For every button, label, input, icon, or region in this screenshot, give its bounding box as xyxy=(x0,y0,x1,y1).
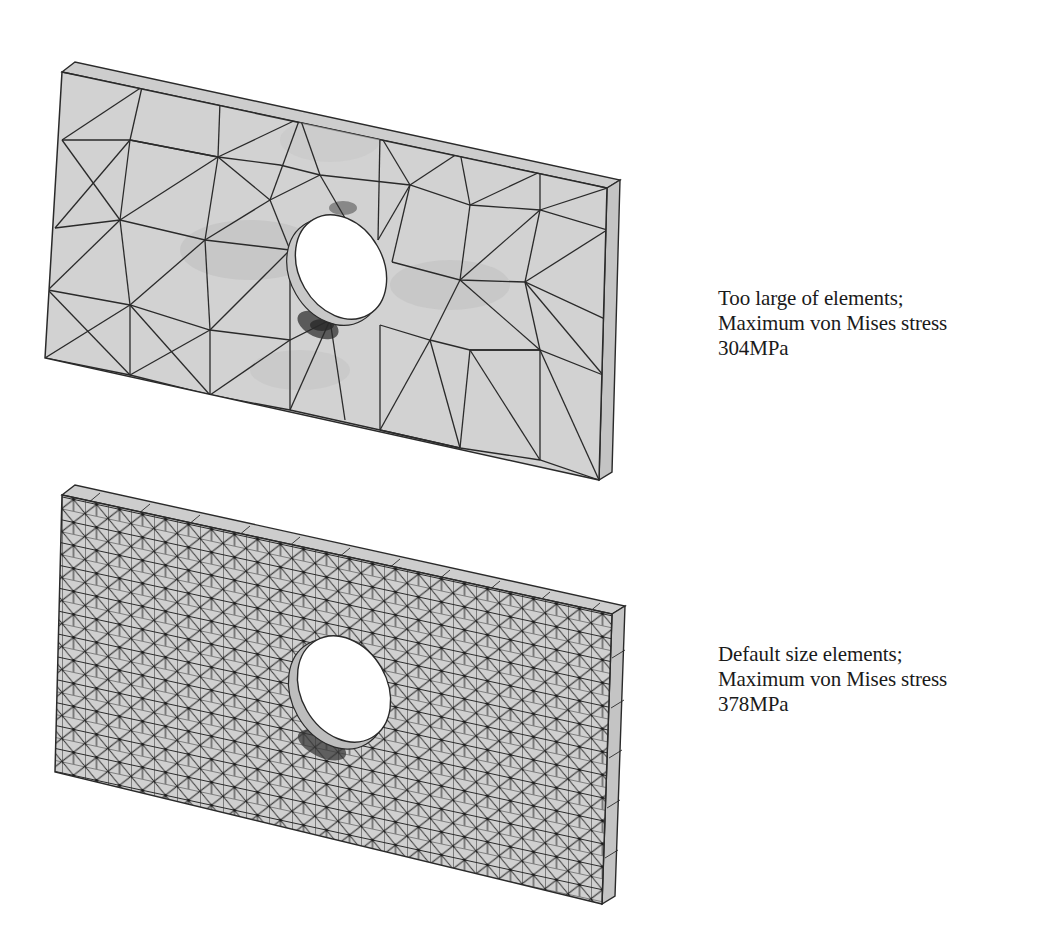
default-mesh-plate xyxy=(0,0,700,942)
caption-line-1: Too large of elements; xyxy=(718,286,947,311)
caption-line-2: Maximum von Mises stress xyxy=(718,667,947,692)
coarse-mesh-caption: Too large of elements; Maximum von Mises… xyxy=(718,286,947,361)
default-mesh-caption: Default size elements; Maximum von Mises… xyxy=(718,642,947,717)
caption-line-2: Maximum von Mises stress xyxy=(718,311,947,336)
caption-line-1: Default size elements; xyxy=(718,642,947,667)
caption-stress-value: 304MPa xyxy=(718,336,947,361)
fea-mesh-comparison-figure: Too large of elements; Maximum von Mises… xyxy=(0,0,1047,942)
caption-stress-value: 378MPa xyxy=(718,692,947,717)
